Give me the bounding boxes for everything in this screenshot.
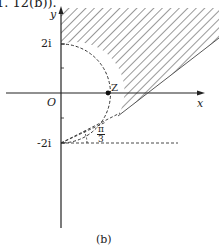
tick-label-minus-2i: -2i [37,138,51,149]
x-axis-arrow-icon [197,91,205,96]
figure-caption: (b) [96,234,112,245]
point-z-label: Z [111,83,118,93]
angle-label: π 3 [97,125,105,144]
point-z [106,91,111,96]
dashed-ray-pi-over-3 [61,113,120,143]
hatched-region [61,8,219,116]
tick-label-2i: 2i [41,38,52,49]
origin-label: O [47,97,56,108]
complex-plane-figure [0,0,219,248]
header-fragment: 1. 12(b)). [0,0,57,9]
x-axis-label: x [197,98,203,109]
y-axis-label: y [50,9,56,20]
angle-denominator: 3 [97,135,105,144]
